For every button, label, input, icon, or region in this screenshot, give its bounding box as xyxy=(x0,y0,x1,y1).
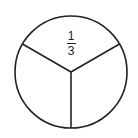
fraction-label: 1 3 xyxy=(61,30,81,57)
numerator: 1 xyxy=(61,30,81,42)
fraction-circle xyxy=(0,0,138,138)
denominator: 3 xyxy=(61,45,81,57)
